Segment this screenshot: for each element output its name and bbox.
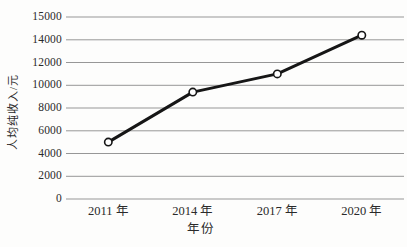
data-point-marker	[105, 138, 112, 145]
x-tick-label: 2011 年	[88, 205, 129, 218]
y-tick-label: 6000	[24, 125, 62, 137]
y-tick-label: 12000	[24, 57, 62, 69]
y-axis-title: 人均纯收入/元	[8, 74, 19, 150]
y-tick-label: 2000	[24, 171, 62, 183]
y-tick-label: 15000	[24, 11, 62, 23]
data-point-marker	[358, 32, 365, 39]
data-point-marker	[274, 70, 281, 77]
income-line-chart: 人均纯收入/元 02000400060008000100001200014000…	[0, 0, 407, 247]
y-tick-label: 8000	[24, 102, 62, 114]
data-line	[108, 35, 361, 142]
data-point-marker	[189, 88, 196, 95]
y-tick-label: 0	[24, 193, 62, 205]
x-tick-label: 2017 年	[257, 205, 298, 218]
x-tick-label: 2020 年	[341, 205, 382, 218]
x-tick-label: 2014 年	[172, 205, 213, 218]
y-tick-label: 4000	[24, 148, 62, 160]
y-tick-label: 14000	[24, 34, 62, 46]
x-axis-title: 年份	[187, 223, 215, 236]
y-tick-label: 10000	[24, 80, 62, 92]
